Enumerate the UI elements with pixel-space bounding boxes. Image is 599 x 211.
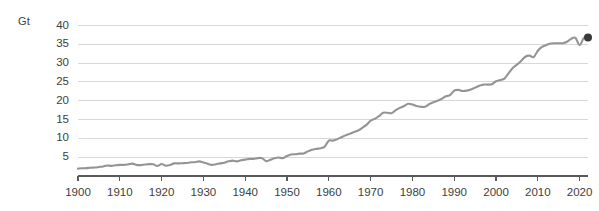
y-axis-tick-label: 40 bbox=[56, 19, 69, 31]
x-axis-tick-label: 1910 bbox=[107, 186, 133, 198]
co2-emissions-chart: Gt 510152025303540 190019101920193019401… bbox=[0, 0, 599, 211]
x-axis-tick-label: 1960 bbox=[316, 186, 342, 198]
x-axis bbox=[78, 176, 588, 181]
y-axis-tick-label: 20 bbox=[56, 94, 69, 106]
x-axis-tick-labels: 1900191019201930194019501960197019801990… bbox=[65, 186, 592, 198]
x-axis-tick-label: 1950 bbox=[274, 186, 300, 198]
emissions-line-series bbox=[78, 37, 588, 168]
x-axis-tick-label: 2010 bbox=[525, 186, 551, 198]
x-axis-tick-label: 2000 bbox=[483, 186, 509, 198]
y-axis-tick-label: 30 bbox=[56, 56, 69, 68]
y-axis-tick-label: 15 bbox=[56, 113, 69, 125]
y-axis-tick-label: 5 bbox=[63, 150, 69, 162]
x-axis-tick-label: 1990 bbox=[441, 186, 467, 198]
x-axis-tick-label: 1980 bbox=[400, 186, 426, 198]
gridlines bbox=[78, 26, 588, 158]
x-axis-tick-label: 1970 bbox=[358, 186, 384, 198]
y-axis-tick-label: 35 bbox=[56, 37, 69, 49]
x-axis-tick-label: 1940 bbox=[232, 186, 258, 198]
y-axis-tick-labels: 510152025303540 bbox=[56, 19, 69, 163]
y-axis-tick-label: 25 bbox=[56, 75, 69, 87]
x-axis-tick-label: 1900 bbox=[65, 186, 91, 198]
x-axis-tick-label: 2020 bbox=[567, 186, 593, 198]
latest-value-marker bbox=[584, 34, 592, 42]
x-axis-tick-label: 1920 bbox=[149, 186, 175, 198]
chart-plot-area: 510152025303540 190019101920193019401950… bbox=[0, 0, 599, 211]
y-axis-tick-label: 10 bbox=[56, 131, 69, 143]
x-axis-tick-label: 1930 bbox=[191, 186, 217, 198]
